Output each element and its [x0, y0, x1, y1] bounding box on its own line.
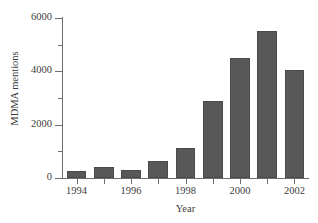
y-axis-tick-label: 6000 [0, 12, 52, 23]
y-axis-tick-label: 4000 [0, 65, 52, 76]
y-axis-tick [55, 178, 63, 179]
bar-chart-figure: MDMA mentions 0200040006000 Year 1994199… [0, 0, 318, 223]
x-axis-title: Year [62, 203, 309, 214]
x-axis-tick [267, 179, 268, 184]
bar [67, 171, 87, 178]
x-axis-tick [186, 179, 187, 184]
x-axis-tick-label: 1996 [108, 186, 154, 197]
x-axis-tick-label: 2000 [217, 186, 263, 197]
y-axis-tick [55, 18, 63, 19]
x-axis-tick-label: 1998 [163, 186, 209, 197]
x-axis-tick [213, 179, 214, 184]
bar [285, 70, 305, 178]
y-axis-tick-labels: 0200040006000 [0, 0, 52, 223]
bar [257, 31, 277, 178]
y-axis-tick-label: 0 [0, 172, 52, 183]
x-axis-tick [131, 179, 132, 184]
x-axis-tick [294, 179, 295, 184]
y-axis-tick [55, 125, 63, 126]
y-axis-tick-label: 2000 [0, 119, 52, 130]
x-axis-tick [104, 179, 105, 184]
bar [94, 167, 114, 178]
bar [230, 58, 250, 178]
x-axis-tick-label: 2002 [271, 186, 317, 197]
x-axis-tick [240, 179, 241, 184]
y-axis-minor-tick [58, 45, 63, 46]
y-axis-minor-tick [58, 151, 63, 152]
plot-area [63, 18, 308, 178]
y-axis-minor-tick [58, 98, 63, 99]
bar [176, 148, 196, 178]
bar [121, 170, 141, 178]
x-axis-tick-label: 1994 [54, 186, 100, 197]
x-axis-tick [77, 179, 78, 184]
y-axis-tick [55, 71, 63, 72]
bar [148, 161, 168, 178]
x-axis-tick [158, 179, 159, 184]
bar [203, 101, 223, 178]
